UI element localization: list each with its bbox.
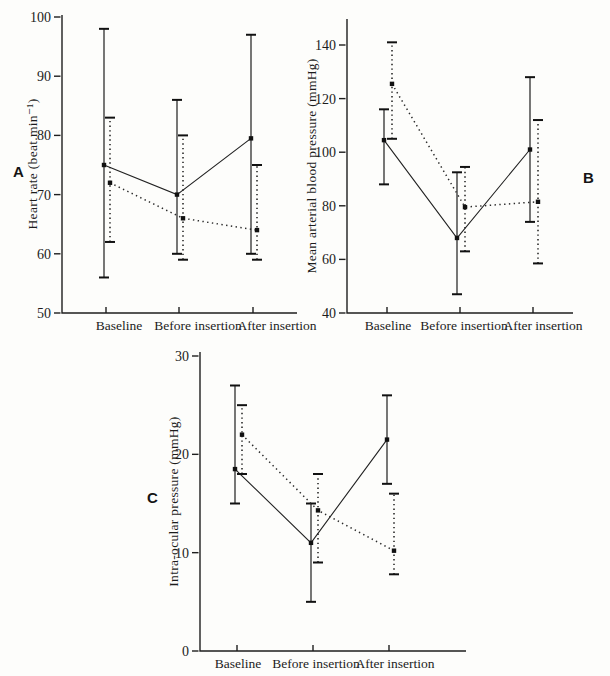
data-point-marker xyxy=(455,236,459,240)
data-point-marker xyxy=(108,181,112,185)
y-tick-label: 60 xyxy=(322,252,336,267)
y-axis-title: Intra-ocular pressure (mmHg) xyxy=(166,416,181,586)
error-bar-line-charts: 5060708090100BaselineBefore insertionAft… xyxy=(0,0,610,676)
three-panel-figure: 5060708090100BaselineBefore insertionAft… xyxy=(0,0,610,676)
x-category-label: Baseline xyxy=(365,318,412,333)
panel-c-letter: C xyxy=(147,489,158,506)
data-point-marker xyxy=(249,136,253,140)
panel-a: 5060708090100BaselineBefore insertionAft… xyxy=(25,10,317,333)
y-tick-label: 100 xyxy=(30,10,51,25)
x-category-label: Baseline xyxy=(96,318,143,333)
x-category-label: Baseline xyxy=(215,656,262,671)
x-category-label: Before insertion xyxy=(154,318,242,333)
data-point-marker xyxy=(382,138,386,142)
panel-b-letter: B xyxy=(583,169,594,186)
y-tick-label: 0 xyxy=(182,644,189,659)
x-category-label: After insertion xyxy=(503,318,582,333)
x-category-label: After insertion xyxy=(237,318,316,333)
y-tick-label: 30 xyxy=(175,349,189,364)
y-tick-label: 60 xyxy=(37,247,51,262)
x-category-label: After insertion xyxy=(355,656,434,671)
y-tick-label: 50 xyxy=(37,306,51,321)
data-point-marker xyxy=(240,432,244,436)
x-category-label: Before insertion xyxy=(272,656,360,671)
data-point-marker xyxy=(536,200,540,204)
panel-a-letter: A xyxy=(13,163,24,180)
dotted-line-group xyxy=(387,42,543,263)
data-point-marker xyxy=(102,163,106,167)
data-point-marker xyxy=(528,147,532,151)
x-category-label: Before insertion xyxy=(420,318,508,333)
y-axis-title: Heart rate (beat.min⁻¹) xyxy=(25,99,40,230)
data-point-marker xyxy=(309,541,313,545)
data-point-marker xyxy=(390,82,394,86)
data-point-marker xyxy=(463,205,467,209)
panel-c: 0102030BaselineBefore insertionAfter ins… xyxy=(166,349,466,671)
y-tick-label: 140 xyxy=(315,38,336,53)
y-tick-label: 90 xyxy=(37,69,51,84)
data-point-marker xyxy=(316,508,320,512)
y-tick-label: 80 xyxy=(322,199,336,214)
solid-line-group xyxy=(99,29,256,278)
panel-b: 406080100120140BaselineBefore insertionA… xyxy=(304,19,583,333)
y-tick-label: 40 xyxy=(322,306,336,321)
data-point-marker xyxy=(385,437,389,441)
axes xyxy=(200,352,466,651)
solid-line-group xyxy=(379,77,535,294)
data-point-marker xyxy=(181,216,185,220)
dotted-line-group xyxy=(237,405,399,574)
solid-line-group xyxy=(230,386,392,602)
y-axis-title: Mean arterial blood pressure (mmHg) xyxy=(304,58,319,273)
dotted-line-group xyxy=(105,118,262,260)
series-line xyxy=(392,84,538,207)
data-point-marker xyxy=(255,228,259,232)
data-point-marker xyxy=(233,467,237,471)
data-point-marker xyxy=(175,192,179,196)
data-point-marker xyxy=(392,549,396,553)
